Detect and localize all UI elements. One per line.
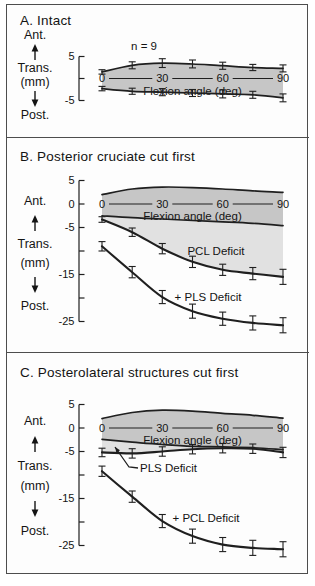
translation-label: Trans. (18, 460, 53, 473)
panel-a-chart: 0306090Flexion angle (deg)5-5n = 9 (50, 33, 308, 135)
error-bar (159, 515, 166, 528)
panel-b-chart: 0306090Flexion angle (deg)50-5-15-25PCL … (50, 170, 308, 350)
panel-a-title: A. Intact (20, 13, 71, 28)
y-tick-label: -15 (59, 268, 75, 280)
y-tick-label: 5 (68, 398, 74, 410)
translation-label: Trans. (18, 62, 53, 75)
y-tick-label: 0 (68, 198, 74, 210)
panel-divider-ab (6, 137, 309, 138)
x-tick-label: 30 (156, 198, 168, 210)
sample-size-annotation: n = 9 (131, 40, 157, 52)
y-tick-label: -25 (59, 315, 75, 327)
y-tick-label: -15 (59, 492, 75, 504)
x-tick-label: 90 (277, 72, 289, 84)
figure: A. Intact B. Posterior cruciate cut firs… (0, 0, 315, 586)
posterior-label: Post. (21, 525, 50, 538)
x-tick-label: 60 (217, 198, 229, 210)
up-arrow-icon (28, 43, 42, 61)
y-tick-label: -25 (59, 539, 75, 551)
series-label: + PLS Deficit (175, 291, 243, 303)
translation-label: Trans. (18, 238, 53, 251)
series-label: + PCL Deficit (172, 512, 240, 524)
mm-unit-label: (mm) (20, 76, 49, 89)
x-tick-label: 60 (217, 72, 229, 84)
down-arrow-icon (28, 90, 42, 108)
y-tick-label: 0 (68, 422, 74, 434)
error-bar (129, 491, 136, 502)
y-tick-label: -5 (65, 445, 75, 457)
y-tick-label: 5 (68, 50, 74, 62)
x-tick-label: 0 (99, 198, 105, 210)
x-tick-label: 30 (156, 72, 168, 84)
error-bar (129, 267, 136, 278)
panel-c-chart: 0306090Flexion angle (deg)50-5-15-25PLS … (50, 394, 308, 572)
panel-b-title: B. Posterior cruciate cut first (20, 149, 195, 164)
posterior-label: Post. (21, 109, 50, 122)
mm-unit-label: (mm) (20, 257, 49, 270)
up-arrow-icon (28, 214, 42, 232)
x-tick-label: 0 (99, 422, 105, 434)
x-tick-label: 90 (277, 422, 289, 434)
x-tick-label: 30 (156, 422, 168, 434)
error-bar (159, 291, 166, 304)
down-arrow-icon (28, 500, 42, 518)
y-tick-label: -5 (65, 94, 75, 106)
panel-divider-bc (6, 352, 309, 353)
x-tick-label: 90 (277, 198, 289, 210)
panel-c-title: C. Posterolateral structures cut first (20, 365, 238, 380)
error-bar (99, 466, 106, 476)
anterior-label: Ant. (24, 415, 46, 428)
anterior-label: Ant. (24, 29, 46, 42)
down-arrow-icon (28, 276, 42, 294)
posterior-label: Post. (21, 300, 50, 313)
series-label: PLS Deficit (140, 462, 198, 474)
anterior-label: Ant. (24, 195, 46, 208)
y-tick-label: 5 (68, 174, 74, 186)
y-tick-label: -5 (65, 221, 75, 233)
mm-unit-label: (mm) (20, 480, 49, 493)
up-arrow-icon (28, 435, 42, 453)
x-tick-label: 60 (217, 422, 229, 434)
series-label: PCL Deficit (187, 245, 245, 257)
